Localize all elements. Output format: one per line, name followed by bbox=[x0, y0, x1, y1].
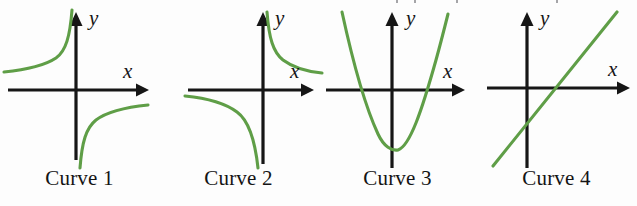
x-axis-arrowhead bbox=[301, 84, 314, 97]
curve-branch-lower-right bbox=[80, 105, 148, 168]
x-axis-arrowhead bbox=[136, 84, 149, 97]
parabola-curve bbox=[342, 12, 448, 150]
x-axis-label: x bbox=[607, 57, 618, 81]
x-axis-label: x bbox=[122, 59, 133, 83]
curve-branch-lower-left bbox=[185, 96, 258, 168]
plot-curve-1: y x bbox=[0, 0, 159, 172]
panel-curve-1: y x Curve 1 bbox=[0, 0, 159, 206]
panel-curve-4: y x Curve 4 bbox=[477, 0, 636, 206]
y-axis-label: y bbox=[538, 6, 550, 30]
panel-curve-3: y x Curve 3 bbox=[318, 0, 477, 206]
plot-curve-4: y x bbox=[477, 0, 636, 172]
plot-curve-2: y x bbox=[159, 0, 318, 172]
caption-curve-2: Curve 2 bbox=[159, 168, 318, 189]
x-axis-arrowhead bbox=[617, 82, 630, 95]
caption-curve-1: Curve 1 bbox=[0, 168, 159, 189]
x-axis-label: x bbox=[442, 59, 453, 83]
y-axis-arrowhead bbox=[521, 12, 534, 26]
caption-curve-3: Curve 3 bbox=[318, 168, 477, 189]
panel-curve-2: y x Curve 2 bbox=[159, 0, 318, 206]
curve-branch-upper-left bbox=[4, 10, 72, 72]
x-axis-label: x bbox=[289, 59, 300, 83]
y-axis-arrowhead bbox=[386, 12, 399, 26]
plot-curve-3: y x bbox=[318, 0, 477, 172]
y-axis-label: y bbox=[404, 6, 416, 30]
curve-comparison-figure: y x Curve 1 y x Curve 2 bbox=[0, 0, 637, 206]
y-axis-label: y bbox=[87, 6, 99, 30]
y-axis-label: y bbox=[273, 6, 285, 30]
caption-curve-4: Curve 4 bbox=[477, 168, 636, 189]
x-axis-arrowhead bbox=[452, 84, 465, 97]
